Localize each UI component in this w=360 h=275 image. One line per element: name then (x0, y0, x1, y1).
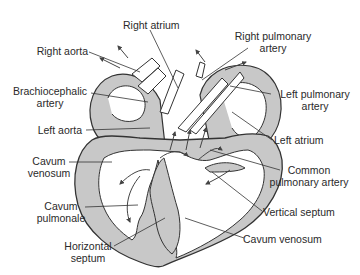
label-right-pulmonary-artery: Right pulmonary artery (228, 30, 318, 54)
label-text: Cavum (26, 155, 72, 167)
label-text: Right pulmonary (228, 30, 318, 42)
label-text: Brachiocephalic (8, 85, 92, 97)
reptile-heart-diagram: Right atrium Right pulmonary artery Righ… (0, 0, 360, 275)
label-cavum-venosum-left: Cavum venosum (26, 155, 72, 179)
label-text: Horizontal (60, 240, 116, 252)
label-right-aorta: Right aorta (30, 45, 88, 57)
label-text: Cavum (36, 200, 86, 212)
label-left-aorta: Left aorta (20, 124, 82, 136)
label-left-atrium: Left atrium (274, 134, 324, 146)
label-text: venosum (26, 167, 72, 179)
label-text: artery (270, 100, 360, 112)
label-text: Cavum venosum (243, 233, 322, 245)
label-right-atrium: Right atrium (123, 19, 180, 31)
label-text: Right atrium (123, 19, 180, 31)
label-text: artery (8, 97, 92, 109)
label-text: pulmonary artery (264, 176, 354, 188)
label-text: Left atrium (274, 134, 324, 146)
label-text: Left aorta (38, 124, 82, 136)
label-cavum-pulmonale: Cavum pulmonale (36, 200, 86, 224)
label-vertical-septum: Vertical septum (263, 206, 335, 218)
label-cavum-venosum-right: Cavum venosum (243, 233, 322, 245)
label-text: Left pulmonary (270, 88, 360, 100)
label-left-pulmonary-artery: Left pulmonary artery (270, 88, 360, 112)
label-horizontal-septum: Horizontal septum (60, 240, 116, 264)
label-text: artery (228, 42, 318, 54)
label-text: Right aorta (37, 45, 88, 57)
label-common-pulmonary-artery: Common pulmonary artery (264, 164, 354, 188)
label-brachiocephalic-artery: Brachiocephalic artery (8, 85, 92, 109)
label-text: pulmonale (36, 212, 86, 224)
label-text: septum (60, 252, 116, 264)
label-text: Vertical septum (263, 206, 335, 218)
label-text: Common (264, 164, 354, 176)
